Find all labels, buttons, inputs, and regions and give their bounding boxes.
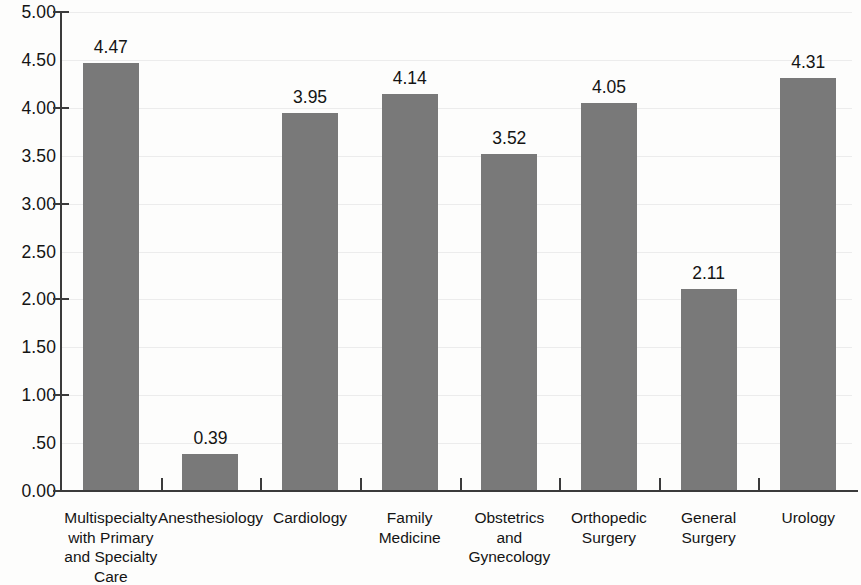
category-label-line: Cardiology bbox=[273, 509, 347, 526]
x-axis-tick-mark bbox=[559, 478, 561, 491]
x-axis-category-label: OrthopedicSurgery bbox=[551, 508, 667, 547]
y-axis-tick-label: 5.00 bbox=[2, 2, 56, 23]
y-axis-tick-label: 2.00 bbox=[2, 289, 56, 310]
y-axis-tick-label: 1.50 bbox=[2, 337, 56, 358]
x-axis-category-label: Multispecialtywith Primaryand SpecialtyC… bbox=[53, 508, 169, 585]
bar-group[interactable]: 4.05 bbox=[559, 12, 659, 491]
x-axis-category-label: FamilyMedicine bbox=[352, 508, 468, 547]
bars-layer: 4.470.393.954.143.524.052.114.31 bbox=[61, 12, 858, 491]
category-label-line: with Primary bbox=[68, 529, 153, 546]
bar-value-label: 2.11 bbox=[659, 263, 759, 284]
bar[interactable] bbox=[182, 454, 238, 491]
category-label-line: Anesthesiology bbox=[158, 509, 263, 526]
x-axis-category-label: Urology bbox=[750, 508, 861, 528]
bar-value-label: 4.05 bbox=[559, 77, 659, 98]
y-axis-tick-label: 4.00 bbox=[2, 97, 56, 118]
category-label-line: Family bbox=[387, 509, 433, 526]
bar[interactable] bbox=[481, 154, 537, 491]
x-axis-tick-mark bbox=[360, 478, 362, 491]
bar-value-label: 4.47 bbox=[61, 37, 161, 58]
bar-group[interactable]: 0.39 bbox=[161, 12, 261, 491]
category-label-line: Urology bbox=[781, 509, 834, 526]
category-label-line: Care bbox=[94, 568, 128, 585]
bar[interactable] bbox=[681, 289, 737, 491]
bar[interactable] bbox=[282, 113, 338, 491]
bar-group[interactable]: 3.95 bbox=[260, 12, 360, 491]
category-label-line: Gynecology bbox=[468, 548, 550, 565]
category-label-line: Obstetrics bbox=[474, 509, 544, 526]
bar-chart: 5.004.504.003.503.002.502.001.501.00.500… bbox=[0, 0, 861, 585]
bar[interactable] bbox=[780, 78, 836, 491]
bar-group[interactable]: 4.14 bbox=[360, 12, 460, 491]
category-label-line: and bbox=[496, 529, 522, 546]
x-axis-category-label: Anesthesiology bbox=[153, 508, 269, 528]
bar-value-label: 0.39 bbox=[161, 428, 261, 449]
bar[interactable] bbox=[83, 63, 139, 491]
y-axis-tick-label: 3.00 bbox=[2, 193, 56, 214]
x-axis-tick-mark bbox=[659, 478, 661, 491]
category-label-line: and Specialty bbox=[64, 548, 157, 565]
bar-value-label: 4.31 bbox=[758, 52, 858, 73]
category-label-line: Surgery bbox=[681, 529, 735, 546]
bar-group[interactable]: 2.11 bbox=[659, 12, 759, 491]
bar[interactable] bbox=[382, 94, 438, 491]
y-axis-tick-label: 0.00 bbox=[2, 481, 56, 502]
y-axis: 5.004.504.003.503.002.502.001.501.00.500… bbox=[0, 0, 56, 585]
category-label-line: Multispecialty bbox=[64, 509, 157, 526]
category-label-line: Orthopedic bbox=[571, 509, 647, 526]
bar-value-label: 3.95 bbox=[260, 87, 360, 108]
y-axis-tick-label: 1.00 bbox=[2, 385, 56, 406]
bar[interactable] bbox=[581, 103, 637, 491]
x-axis-tick-mark bbox=[161, 478, 163, 491]
y-axis-tick-label: .50 bbox=[2, 433, 56, 454]
x-axis-category-label: Cardiology bbox=[252, 508, 368, 528]
category-label-line: Medicine bbox=[379, 529, 441, 546]
category-label-line: General bbox=[681, 509, 736, 526]
bar-group[interactable]: 4.47 bbox=[61, 12, 161, 491]
y-axis-tick-label: 3.50 bbox=[2, 145, 56, 166]
bar-value-label: 4.14 bbox=[360, 68, 460, 89]
x-axis-tick-mark bbox=[460, 478, 462, 491]
x-axis-tick-mark bbox=[260, 478, 262, 491]
x-axis-category-label: ObstetricsandGynecology bbox=[452, 508, 568, 567]
x-axis-category-label: GeneralSurgery bbox=[651, 508, 767, 547]
x-axis-tick-mark bbox=[758, 478, 760, 491]
bar-value-label: 3.52 bbox=[460, 128, 560, 149]
bar-group[interactable]: 4.31 bbox=[758, 12, 858, 491]
y-axis-tick-label: 4.50 bbox=[2, 49, 56, 70]
category-label-line: Surgery bbox=[582, 529, 636, 546]
bar-group[interactable]: 3.52 bbox=[460, 12, 560, 491]
y-axis-tick-label: 2.50 bbox=[2, 241, 56, 262]
